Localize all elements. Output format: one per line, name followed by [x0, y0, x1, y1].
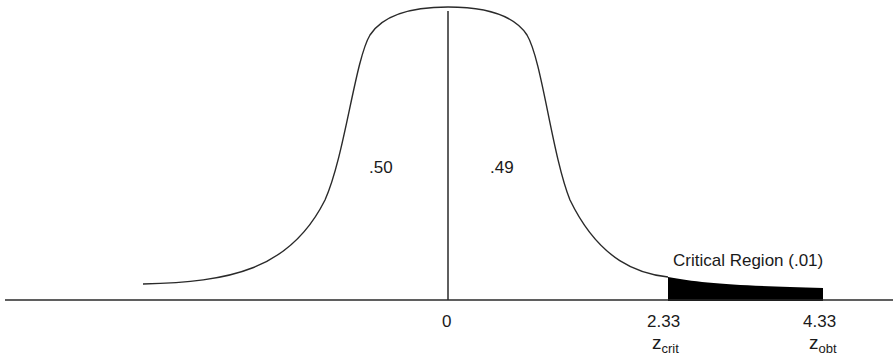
- critical-region-label: Critical Region (.01): [673, 252, 823, 269]
- z-symbol: z: [652, 332, 662, 353]
- critical-region-fill: [668, 277, 823, 301]
- tick-label-zero: 0: [442, 313, 451, 330]
- bell-curve: [143, 7, 668, 284]
- area-label-right: .49: [490, 159, 514, 176]
- z-symbol: z: [809, 332, 819, 353]
- area-label-left: .50: [369, 159, 393, 176]
- crit-subscript: crit: [662, 341, 679, 356]
- normal-curve-diagram: [0, 0, 893, 359]
- obt-subscript: obt: [819, 341, 837, 356]
- tick-label-obtained: 4.33: [803, 313, 836, 330]
- z-obt-label: zobt: [809, 333, 837, 355]
- z-crit-label: zcrit: [652, 333, 679, 355]
- tick-label-critical: 2.33: [647, 313, 680, 330]
